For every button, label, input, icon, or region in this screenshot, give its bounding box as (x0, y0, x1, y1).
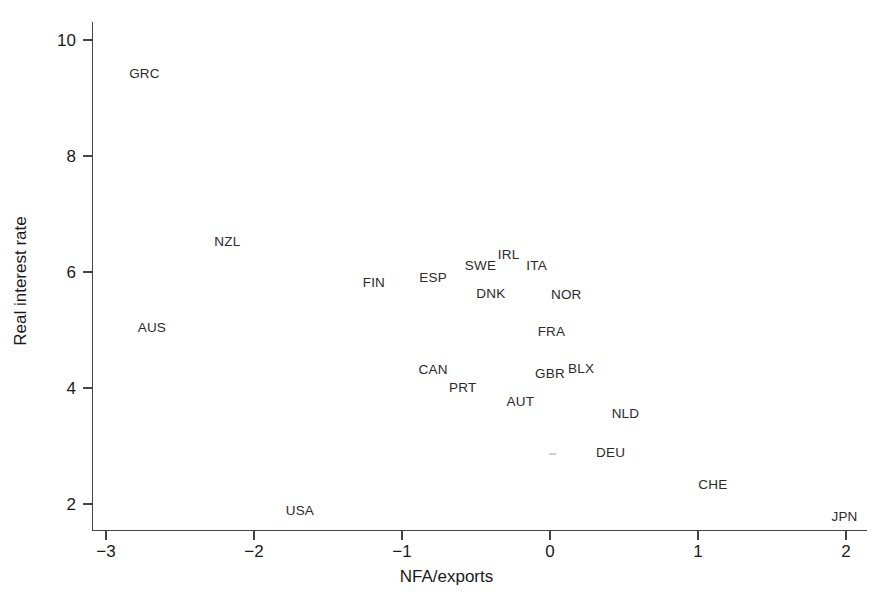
y-axis-title: Real interest rate (11, 141, 31, 421)
data-point-che: CHE (698, 478, 727, 492)
y-tick-2 (83, 503, 92, 504)
data-point-grc: GRC (129, 67, 160, 81)
y-tick-8 (83, 155, 92, 156)
y-tick-label-8: 8 (36, 148, 76, 165)
data-point-aus: AUS (138, 322, 166, 336)
y-tick-6 (83, 271, 92, 272)
y-tick-4 (83, 387, 92, 388)
x-axis-title: NFA/exports (0, 567, 893, 587)
data-point-can: CAN (419, 363, 448, 377)
y-tick-label-6: 6 (36, 264, 76, 281)
x-tick-label-1: 1 (678, 543, 718, 560)
x-tick-1 (697, 531, 698, 540)
data-point-swe: SWE (465, 259, 496, 273)
data-point-fra: FRA (538, 325, 566, 339)
x-tick--3 (105, 531, 106, 540)
x-tick-0 (549, 531, 550, 540)
x-tick--2 (253, 531, 254, 540)
y-tick-10 (83, 39, 92, 40)
x-tick-label-0: 0 (530, 543, 570, 560)
x-tick-label--1: −1 (382, 543, 422, 560)
data-point-esp: ESP (419, 271, 447, 285)
x-tick--1 (401, 531, 402, 540)
y-axis-line (92, 22, 93, 531)
stray-mark-icon (549, 453, 556, 455)
x-tick-2 (845, 531, 846, 540)
data-point-jpn: JPN (831, 510, 857, 524)
data-point-aut: AUT (507, 395, 535, 409)
y-tick-label-2: 2 (36, 496, 76, 513)
x-tick-label-2: 2 (826, 543, 866, 560)
data-point-ita: ITA (526, 259, 547, 273)
data-point-nor: NOR (551, 288, 582, 302)
x-axis-line (92, 530, 867, 531)
data-point-usa: USA (286, 504, 314, 518)
y-tick-label-4: 4 (36, 380, 76, 397)
plot-area: 246810 −3−2−1012 GRCNZLAUSFINESPSWEIRLIT… (0, 0, 893, 611)
data-point-irl: IRL (498, 248, 520, 262)
data-point-deu: DEU (596, 446, 625, 460)
data-point-fin: FIN (363, 276, 385, 290)
y-tick-label-10: 10 (36, 32, 76, 49)
data-point-dnk: DNK (476, 287, 505, 301)
data-point-gbr: GBR (535, 367, 565, 381)
data-point-nld: NLD (612, 407, 640, 421)
x-tick-label--2: −2 (234, 543, 274, 560)
x-tick-label--3: −3 (86, 543, 126, 560)
data-point-prt: PRT (449, 381, 476, 395)
scatter-plot-figure: 246810 −3−2−1012 GRCNZLAUSFINESPSWEIRLIT… (0, 0, 893, 611)
data-point-nzl: NZL (214, 235, 240, 249)
data-point-blx: BLX (568, 362, 594, 376)
